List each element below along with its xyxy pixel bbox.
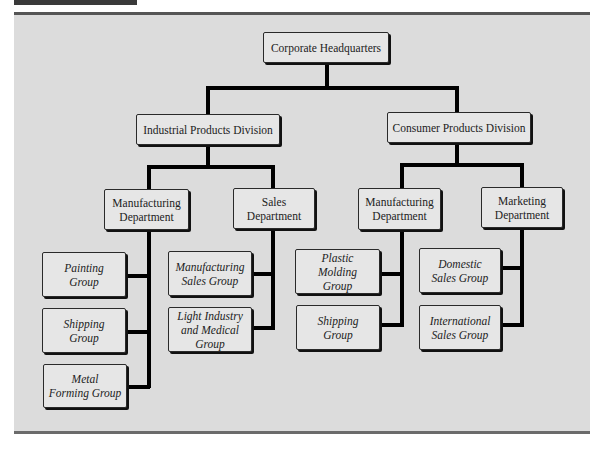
node-industrial-manufacturing-department: Manufacturing Department: [104, 189, 189, 230]
connector: [251, 272, 275, 276]
connector: [400, 230, 404, 327]
node-consumer-products-division: Consumer Products Division: [387, 112, 531, 143]
node-consumer-manufacturing-department: Manufacturing Department: [358, 188, 441, 230]
connector: [126, 385, 150, 389]
node-consumer-shipping-group: Shipping Group: [296, 305, 380, 350]
connector: [271, 229, 275, 330]
node-label: Consumer Products Division: [393, 121, 526, 135]
connector: [520, 228, 524, 327]
node-domestic-sales-group: Domestic Sales Group: [419, 248, 501, 293]
connector: [126, 330, 150, 334]
connector: [271, 165, 275, 188]
bottom-rule: [14, 431, 590, 434]
node-label: Plastic Molding Group: [318, 251, 357, 293]
connector: [206, 145, 210, 167]
node-sales-department: Sales Department: [233, 188, 315, 229]
node-label: Light Industry and Medical Group: [177, 309, 243, 351]
connector: [455, 86, 459, 113]
connector: [206, 86, 210, 114]
figure-label-tab: [14, 0, 137, 5]
node-label: Painting Group: [64, 261, 104, 289]
node-label: Manufacturing Sales Group: [176, 260, 245, 288]
node-marketing-department: Marketing Department: [481, 187, 563, 228]
node-label: Corporate Headquarters: [271, 41, 381, 55]
node-label: Shipping Group: [64, 317, 105, 345]
connector: [206, 86, 459, 90]
connector: [126, 274, 150, 278]
node-industrial-products-division: Industrial Products Division: [136, 114, 280, 145]
connector: [379, 323, 404, 327]
connector: [455, 143, 459, 165]
node-label: Manufacturing Department: [365, 195, 433, 223]
connector: [147, 165, 151, 189]
node-plastic-molding-group: Plastic Molding Group: [295, 249, 380, 294]
node-label: Shipping Group: [318, 314, 359, 342]
connector: [251, 326, 275, 330]
connector: [400, 163, 524, 167]
node-label: Industrial Products Division: [143, 123, 273, 137]
connector: [500, 323, 524, 327]
node-label: Manufacturing Department: [112, 196, 180, 224]
node-label: Domestic Sales Group: [432, 257, 489, 285]
node-label: Sales Department: [247, 195, 301, 223]
connector: [147, 165, 275, 169]
node-label: International Sales Group: [430, 314, 491, 342]
connector: [520, 163, 524, 188]
connector: [500, 266, 524, 270]
node-international-sales-group: International Sales Group: [419, 305, 501, 350]
node-label: Marketing Department: [495, 194, 549, 222]
node-label: Metal Forming Group: [49, 372, 122, 400]
node-light-industry-medical-group: Light Industry and Medical Group: [168, 307, 252, 352]
connector: [147, 230, 151, 388]
node-industrial-shipping-group: Shipping Group: [42, 308, 126, 353]
node-metal-forming-group: Metal Forming Group: [43, 364, 127, 408]
connector: [325, 63, 329, 87]
node-manufacturing-sales-group: Manufacturing Sales Group: [168, 251, 252, 296]
node-painting-group: Painting Group: [42, 252, 126, 297]
connector: [400, 163, 404, 188]
node-corporate-headquarters: Corporate Headquarters: [263, 32, 389, 63]
connector: [379, 272, 404, 276]
